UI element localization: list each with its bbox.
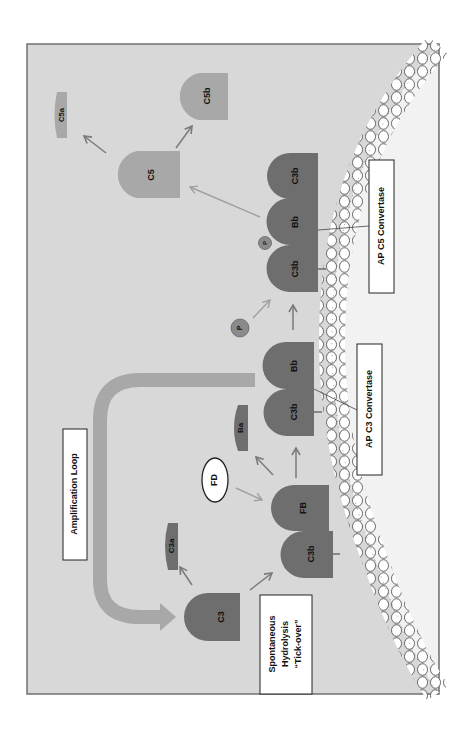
- label-ba: Ba: [236, 422, 245, 433]
- label-ap-c3-convertase: AP C3 Convertase: [364, 370, 374, 448]
- label-p-bound: P: [262, 241, 268, 245]
- label-c3b-conv5-b: C3b: [290, 167, 300, 185]
- label-bb-conv3: Bb: [289, 360, 299, 372]
- label-p-free: P: [236, 325, 243, 330]
- label-c5a: C5a: [57, 107, 66, 122]
- label-tick-over-3: “Tick-over”: [293, 620, 303, 669]
- label-tick-over-1: Spontaneous: [267, 615, 277, 672]
- label-fd: FD: [209, 474, 219, 486]
- label-c3b-initial: C3b: [306, 545, 316, 563]
- label-c3: C3: [216, 611, 226, 623]
- protein-bb-conv3: [263, 342, 314, 389]
- label-amplification-loop: Amplification Loop: [69, 453, 79, 535]
- label-c3b-conv3: C3b: [289, 403, 299, 421]
- label-tick-over-2: Hydrolysis: [280, 621, 290, 667]
- protein-c3: [184, 593, 240, 641]
- label-c3a: C3a: [167, 538, 176, 553]
- label-ap-c5-convertase: AP C5 Convertase: [376, 187, 386, 265]
- label-fb: FB: [298, 502, 308, 514]
- label-bb-conv5: Bb: [290, 216, 300, 228]
- label-c3b-conv5-a: C3b: [290, 260, 300, 278]
- complement-pathway-diagram: C3 C3a C3b FB FD Ba C3b Bb P C3b Bb C3b …: [0, 0, 464, 733]
- label-c5b: C5b: [202, 87, 212, 105]
- label-c5: C5: [146, 169, 156, 181]
